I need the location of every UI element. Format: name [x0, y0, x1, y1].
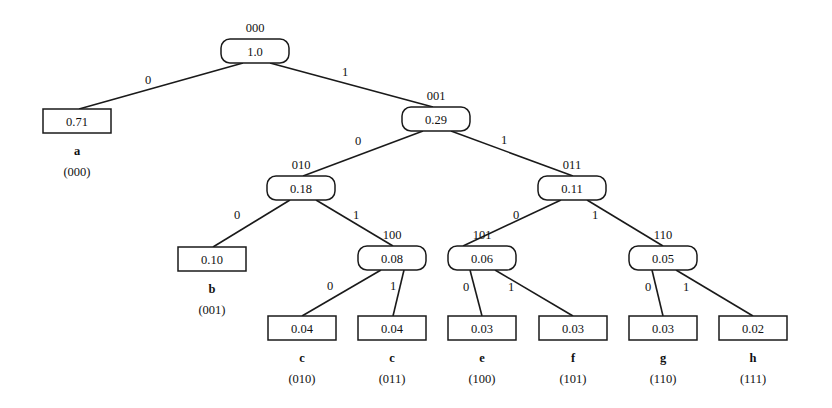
leaf-probability: 0.10 — [201, 253, 223, 267]
edge-line — [495, 270, 573, 316]
tree-diagram: 01010101010101 0001.00010.290100.180110.… — [0, 0, 832, 408]
leaf-code: (111) — [740, 372, 766, 386]
tree-edge: 1 — [676, 270, 753, 316]
edge-label: 1 — [390, 279, 396, 293]
edge-line — [79, 63, 243, 109]
edge-line — [393, 270, 404, 316]
edge-label: 0 — [513, 208, 519, 222]
leaf-probability: 0.03 — [471, 322, 493, 336]
leaf-node: 0.03g(110) — [629, 316, 697, 386]
node-probability: 0.08 — [381, 252, 403, 266]
leaf-symbol: c — [299, 351, 305, 365]
leaf-code: (100) — [468, 372, 495, 386]
internal-node: 1010.06 — [448, 228, 516, 270]
leaf-probability: 0.02 — [742, 322, 764, 336]
edge-label: 1 — [353, 208, 359, 222]
tree-edge: 0 — [645, 270, 663, 316]
tree-edge: 0 — [213, 200, 290, 247]
tree-edge: 0 — [303, 131, 423, 176]
tree-edge: 1 — [316, 200, 393, 246]
leaf-code: (101) — [559, 372, 586, 386]
leaf-code: (110) — [650, 372, 677, 386]
leaf-probability: 0.03 — [562, 322, 584, 336]
leaf-symbol: c — [389, 351, 395, 365]
leaf-probability: 0.03 — [652, 322, 674, 336]
edge-label: 0 — [645, 280, 651, 294]
node-code: 110 — [654, 228, 672, 242]
edge-line — [270, 63, 433, 107]
edge-line — [302, 270, 381, 316]
leaf-code: (000) — [63, 165, 90, 179]
node-probability: 0.11 — [561, 182, 582, 196]
node-code: 001 — [427, 89, 446, 103]
edge-line — [652, 270, 663, 316]
leaf-node: 0.03f(101) — [539, 316, 607, 386]
node-code: 010 — [292, 158, 311, 172]
edge-label: 1 — [592, 208, 598, 222]
edge-line — [213, 200, 290, 247]
node-code: 101 — [473, 228, 492, 242]
leaf-symbol: a — [74, 144, 81, 158]
leaf-node: 0.03e(100) — [448, 316, 516, 386]
edge-line — [587, 200, 663, 246]
leaf-node: 0.71a(000) — [43, 109, 111, 179]
node-code: 000 — [246, 21, 265, 35]
leaf-code: (011) — [379, 372, 406, 386]
edge-label: 0 — [145, 73, 151, 87]
edge-label: 0 — [234, 208, 240, 222]
edge-label: 1 — [342, 65, 348, 79]
leaf-probability: 0.71 — [66, 115, 88, 129]
node-code: 011 — [563, 158, 581, 172]
edge-label: 0 — [355, 134, 361, 148]
leaf-symbol: b — [209, 282, 216, 296]
leaf-node: 0.04c(011) — [358, 316, 426, 386]
internal-node: 1000.08 — [358, 228, 426, 270]
internal-node: 1100.05 — [629, 228, 697, 270]
tree-edge: 0 — [79, 63, 243, 109]
tree-edge: 1 — [587, 200, 663, 246]
edge-line — [303, 131, 423, 176]
internal-node: 0110.11 — [538, 158, 606, 200]
edge-line — [316, 200, 393, 246]
tree-edge: 1 — [495, 270, 573, 316]
leaf-symbol: g — [660, 351, 667, 365]
leaf-symbol: h — [750, 351, 757, 365]
edge-label: 1 — [683, 280, 689, 294]
internal-node: 0001.0 — [221, 21, 289, 63]
node-probability: 0.29 — [425, 113, 447, 127]
edges-layer: 01010101010101 — [79, 63, 753, 316]
leaf-symbol: f — [571, 351, 576, 365]
leaf-code: (001) — [198, 303, 225, 317]
leaf-node: 0.02h(111) — [719, 316, 787, 386]
node-code: 100 — [383, 228, 402, 242]
leaf-node: 0.04c(010) — [268, 316, 336, 386]
nodes-layer: 0001.00010.290100.180110.111000.081010.0… — [43, 21, 787, 386]
node-probability: 1.0 — [247, 45, 263, 59]
tree-edge: 0 — [302, 270, 381, 316]
tree-edge: 1 — [270, 63, 433, 107]
node-probability: 0.06 — [471, 252, 493, 266]
edge-label: 1 — [508, 280, 514, 294]
node-probability: 0.18 — [290, 182, 312, 196]
leaf-probability: 0.04 — [291, 322, 314, 336]
internal-node: 0100.18 — [267, 158, 335, 200]
internal-node: 0010.29 — [402, 89, 470, 131]
tree-edge: 0 — [463, 270, 482, 316]
leaf-node: 0.10b(001) — [178, 247, 246, 317]
tree-edge: 1 — [390, 270, 404, 316]
tree-edge: 1 — [451, 131, 573, 176]
edge-label: 0 — [327, 279, 333, 293]
edge-label: 1 — [501, 133, 507, 147]
leaf-probability: 0.04 — [381, 322, 404, 336]
leaf-symbol: e — [479, 351, 485, 365]
leaf-code: (010) — [288, 372, 315, 386]
node-probability: 0.05 — [652, 252, 674, 266]
edge-line — [470, 270, 482, 316]
tree-canvas: 01010101010101 0001.00010.290100.180110.… — [0, 0, 832, 408]
edge-line — [451, 131, 573, 176]
edge-label: 0 — [463, 280, 469, 294]
